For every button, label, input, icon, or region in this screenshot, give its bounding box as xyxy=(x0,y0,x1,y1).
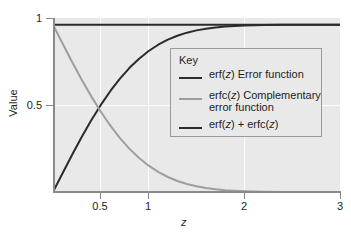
x-axis-line xyxy=(53,191,341,193)
y-tick-label-1: 1 xyxy=(12,12,42,24)
x-axis-title: z xyxy=(181,216,187,228)
legend-swatch-erf xyxy=(179,77,202,79)
y-axis-title: Value xyxy=(7,81,19,125)
y-tick-mark-0.5 xyxy=(46,105,53,106)
x-tick-mark-2 xyxy=(244,193,245,199)
legend-title: Key xyxy=(179,54,198,66)
legend-label-sum: erf(z) + erfc(z) xyxy=(209,119,327,131)
y-axis-line xyxy=(53,18,55,193)
x-tick-label-1: 1 xyxy=(133,200,163,212)
legend-swatch-erfc xyxy=(179,98,202,100)
legend-label-erf: erf(z) Error function xyxy=(209,69,327,81)
y-tick-mark-1 xyxy=(46,18,53,19)
legend-label-erfc: erfc(z) Complementary error function xyxy=(209,90,327,113)
x-tick-label-2: 2 xyxy=(229,200,259,212)
legend-key-box: Key erf(z) Error function erfc(z) Comple… xyxy=(170,48,322,137)
legend-swatch-sum xyxy=(179,127,202,129)
x-tick-label-0.5: 0.5 xyxy=(85,200,115,212)
x-tick-mark-0.5 xyxy=(100,193,101,199)
x-tick-mark-1 xyxy=(148,193,149,199)
x-tick-mark-3 xyxy=(340,193,341,199)
x-tick-label-3: 3 xyxy=(325,200,351,212)
error-function-chart: 0.5 1 2 3 0.5 1 z Value Key erf(z) Error… xyxy=(0,0,351,238)
